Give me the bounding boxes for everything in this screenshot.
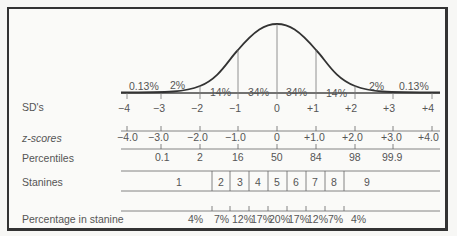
stanine-pct: 7% xyxy=(328,213,343,225)
label-percentiles: Percentiles xyxy=(22,152,74,164)
stanine-pct: 7% xyxy=(214,213,229,225)
normal-curve-diagram xyxy=(0,0,457,236)
label-sd: SD's xyxy=(22,101,44,113)
stanine: 1 xyxy=(176,176,182,188)
sd-tick: −3 xyxy=(153,102,165,114)
z-score: −2.0 xyxy=(187,131,208,143)
sd-tick: +3 xyxy=(383,102,395,114)
stanine-pct: 12% xyxy=(307,213,328,225)
percentile: 2 xyxy=(197,151,203,163)
stanine-pct: 17% xyxy=(288,213,309,225)
percentile: 50 xyxy=(271,151,283,163)
z-score: +2.0 xyxy=(342,131,363,143)
stanine-pct: 12% xyxy=(232,213,253,225)
area-label: 34% xyxy=(248,86,269,98)
area-label: 2% xyxy=(369,80,384,92)
z-score: −3.0 xyxy=(148,131,169,143)
sd-tick: 0 xyxy=(274,102,280,114)
percentile: 16 xyxy=(232,151,244,163)
stanine: 9 xyxy=(364,176,370,188)
area-label: 14% xyxy=(210,86,231,98)
percentile: 0.1 xyxy=(155,151,170,163)
sd-tick: +1 xyxy=(307,102,319,114)
percentile: 99.9 xyxy=(382,151,402,163)
z-score: +4.0 xyxy=(418,131,439,143)
area-label: 0.13% xyxy=(129,80,159,92)
sd-tick: −4 xyxy=(118,102,130,114)
sd-tick: −1 xyxy=(229,102,241,114)
stanine: 7 xyxy=(312,176,318,188)
z-score: +3.0 xyxy=(381,131,402,143)
label-z-scores: z-scores xyxy=(22,132,62,144)
stanine: 5 xyxy=(274,176,280,188)
area-label: 14% xyxy=(326,87,347,99)
stanine: 6 xyxy=(293,176,299,188)
stanine: 4 xyxy=(255,176,261,188)
sd-tick: +4 xyxy=(422,102,434,114)
label-percentage-in-stanine: Percentage in stanine xyxy=(22,213,124,225)
z-score: +1.0 xyxy=(304,131,325,143)
sd-tick: +2 xyxy=(345,102,357,114)
percentile: 84 xyxy=(310,151,322,163)
normal-curve xyxy=(121,24,440,93)
z-score: 0 xyxy=(274,131,280,143)
stanine-pct: 4% xyxy=(188,213,203,225)
stanine: 2 xyxy=(218,176,224,188)
area-label: 0.13% xyxy=(399,80,429,92)
z-score: −1.0 xyxy=(225,131,246,143)
percentile: 98 xyxy=(349,151,361,163)
stanine-pct: 20% xyxy=(269,213,290,225)
sd-tick: −2 xyxy=(191,102,203,114)
area-label: 2% xyxy=(170,79,185,91)
z-score: −4.0 xyxy=(117,131,138,143)
stanine-pct: 4% xyxy=(351,213,366,225)
stanine: 3 xyxy=(237,176,243,188)
area-label: 34% xyxy=(286,86,307,98)
stanine: 8 xyxy=(331,176,337,188)
label-stanines: Stanines xyxy=(22,176,63,188)
